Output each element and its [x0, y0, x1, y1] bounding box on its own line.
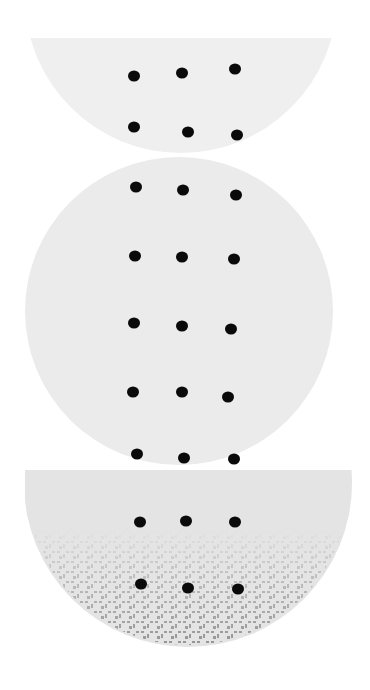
dot [229, 517, 241, 528]
top-half-disc [25, 0, 337, 153]
dot [128, 122, 140, 133]
dot [127, 387, 139, 398]
dot [182, 583, 194, 594]
dot [232, 584, 244, 595]
dot [177, 185, 189, 196]
dot [228, 454, 240, 465]
dot [176, 321, 188, 332]
abstract-artwork [0, 0, 370, 690]
dot [129, 251, 141, 262]
dot [135, 579, 147, 590]
dot [176, 252, 188, 263]
dot [222, 392, 234, 403]
dot [176, 387, 188, 398]
dot [176, 68, 188, 79]
dot [228, 254, 240, 265]
dot [128, 71, 140, 82]
dot [231, 130, 243, 141]
dot [180, 516, 192, 527]
dot [130, 182, 142, 193]
dot [230, 190, 242, 201]
dot [182, 127, 194, 138]
dot [134, 517, 146, 528]
dot [128, 318, 140, 329]
dot [178, 453, 190, 464]
dot [225, 324, 237, 335]
dot [229, 64, 241, 75]
dot [131, 449, 143, 460]
middle-circle [25, 157, 333, 465]
